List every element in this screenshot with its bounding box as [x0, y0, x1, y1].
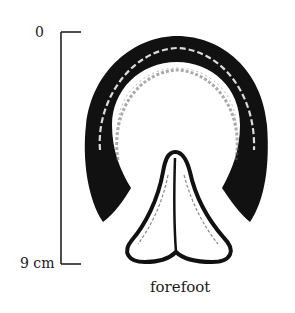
hoof-print-illustration	[85, 36, 268, 262]
scale-bottom-label: 9 cm	[20, 256, 54, 270]
frog	[127, 152, 231, 262]
scale-top-label: 0	[35, 25, 44, 39]
hoof-wall-highlight-inner	[117, 70, 238, 160]
figure-caption: forefoot	[150, 280, 210, 295]
scale-bar	[61, 32, 81, 264]
